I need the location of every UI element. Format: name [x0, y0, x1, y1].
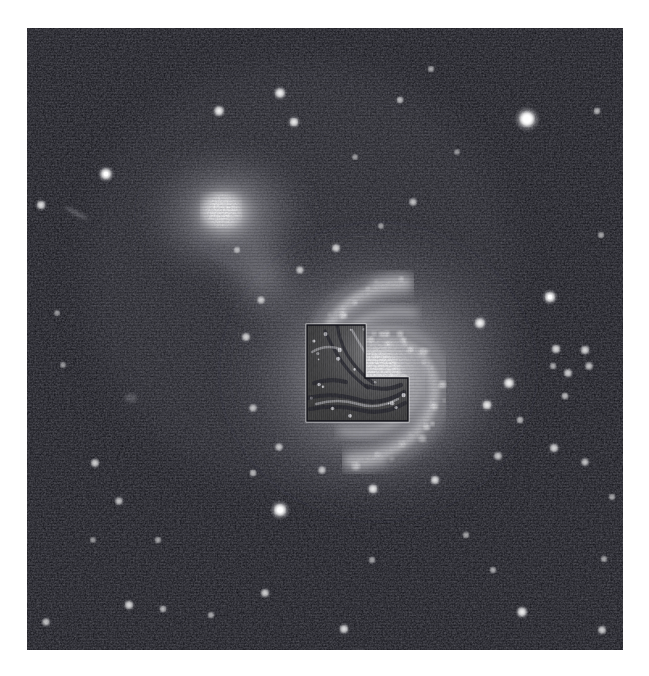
scanline	[27, 433, 623, 434]
star-peak	[104, 172, 109, 177]
scanline	[27, 34, 623, 35]
scanline	[27, 49, 623, 50]
scanline	[27, 214, 623, 215]
scanline	[27, 256, 623, 257]
scanline	[27, 148, 623, 149]
sky-image-frame	[27, 28, 623, 650]
scanline	[27, 316, 623, 317]
scanline	[27, 79, 623, 80]
star	[55, 311, 59, 315]
star	[505, 379, 512, 386]
star	[370, 558, 374, 562]
star	[582, 459, 587, 464]
scanline	[27, 526, 623, 527]
scanline	[27, 43, 623, 44]
scanline	[27, 613, 623, 614]
star	[126, 602, 132, 608]
scanline	[27, 199, 623, 200]
scanline	[27, 601, 623, 602]
scanline	[27, 487, 623, 488]
scanline	[27, 106, 623, 107]
star	[216, 108, 223, 115]
scanline	[27, 631, 623, 632]
scanline	[27, 142, 623, 143]
star	[553, 346, 559, 352]
scanline	[27, 97, 623, 98]
scanline	[27, 181, 623, 182]
scanline	[27, 88, 623, 89]
scanline	[27, 541, 623, 542]
scanline	[27, 439, 623, 440]
scanline	[27, 259, 623, 260]
scanline	[27, 511, 623, 512]
scanline	[27, 211, 623, 212]
scanline	[27, 76, 623, 77]
star	[370, 486, 377, 493]
star	[582, 347, 588, 353]
scanline	[27, 322, 623, 323]
star	[297, 267, 302, 272]
scanline	[27, 514, 623, 515]
scanline	[27, 163, 623, 164]
scanline	[27, 583, 623, 584]
scanline	[27, 310, 623, 311]
scanline	[27, 277, 623, 278]
scanline	[27, 292, 623, 293]
scanline	[27, 436, 623, 437]
scanline	[27, 226, 623, 227]
scanline	[27, 607, 623, 608]
scanline	[27, 490, 623, 491]
scanline	[27, 169, 623, 170]
scanline	[27, 544, 623, 545]
star	[43, 619, 48, 624]
scanline	[27, 139, 623, 140]
star	[276, 444, 281, 449]
star	[319, 467, 324, 472]
scanline	[27, 451, 623, 452]
scanline	[27, 520, 623, 521]
scanline	[27, 286, 623, 287]
scanline	[27, 31, 623, 32]
scanline	[27, 232, 623, 233]
star	[595, 109, 600, 114]
scanline	[27, 202, 623, 203]
star	[563, 394, 568, 399]
scanline	[27, 559, 623, 560]
scanline	[27, 298, 623, 299]
scanline	[27, 550, 623, 551]
star	[156, 538, 160, 542]
scanline	[27, 250, 623, 251]
scanline	[27, 247, 623, 248]
scanline	[27, 70, 623, 71]
scanline	[27, 517, 623, 518]
star	[551, 445, 557, 451]
scanline	[27, 82, 623, 83]
star	[610, 495, 614, 499]
scanline	[27, 637, 623, 638]
scanline	[27, 133, 623, 134]
star	[161, 607, 166, 612]
star	[276, 89, 283, 96]
figure-root	[0, 0, 649, 676]
star	[341, 626, 347, 632]
scanline	[27, 442, 623, 443]
scanline	[27, 643, 623, 644]
scanline	[27, 424, 623, 425]
star	[491, 568, 495, 572]
scanline	[27, 52, 623, 53]
star	[519, 609, 526, 616]
star	[484, 402, 491, 409]
scanline	[27, 172, 623, 173]
scanline	[27, 205, 623, 206]
star	[429, 67, 433, 71]
scanline	[27, 532, 623, 533]
star-peak	[523, 115, 530, 122]
star	[262, 590, 268, 596]
scanline	[27, 430, 623, 431]
star	[291, 119, 298, 126]
scanline	[27, 586, 623, 587]
scanline	[27, 304, 623, 305]
star	[432, 477, 438, 483]
scanline	[27, 619, 623, 620]
scanline	[27, 640, 623, 641]
